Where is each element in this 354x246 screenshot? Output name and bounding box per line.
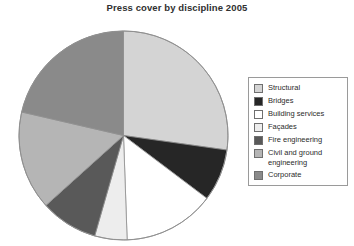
pie-svg	[18, 30, 229, 241]
pie-slice[interactable]	[124, 31, 228, 150]
legend-swatch-icon	[254, 110, 263, 119]
pie-plot-area	[18, 30, 229, 241]
legend-item-label: Civil and ground engineering	[268, 148, 322, 167]
legend-item-corporate[interactable]: Corporate	[254, 170, 343, 180]
legend-item-structural[interactable]: Structural	[254, 83, 343, 93]
legend-item-label: Corporate	[268, 170, 301, 180]
legend-item-facades[interactable]: Façades	[254, 122, 343, 132]
legend-item-label: Bridges	[268, 96, 293, 106]
legend-swatch-icon	[254, 97, 263, 106]
chart-legend: Structural Bridges Building services Faç…	[248, 77, 348, 186]
legend-item-label: Building services	[268, 109, 324, 119]
pie-chart-figure: Press cover by discipline 2005 Structura…	[0, 0, 354, 246]
legend-swatch-icon	[254, 84, 263, 93]
legend-item-building-services[interactable]: Building services	[254, 109, 343, 119]
legend-swatch-icon	[254, 171, 263, 180]
legend-swatch-icon	[254, 136, 263, 145]
legend-item-label: Façades	[268, 122, 297, 132]
legend-item-civil-and-ground-engineering[interactable]: Civil and ground engineering	[254, 148, 343, 167]
legend-item-fire-engineering[interactable]: Fire engineering	[254, 135, 343, 145]
legend-item-label: Fire engineering	[268, 135, 322, 145]
legend-item-label: Structural	[268, 83, 300, 93]
legend-item-bridges[interactable]: Bridges	[254, 96, 343, 106]
chart-title: Press cover by discipline 2005	[0, 2, 354, 13]
legend-swatch-icon	[254, 123, 263, 132]
legend-swatch-icon	[254, 149, 263, 158]
pie-slice-group	[19, 31, 228, 240]
